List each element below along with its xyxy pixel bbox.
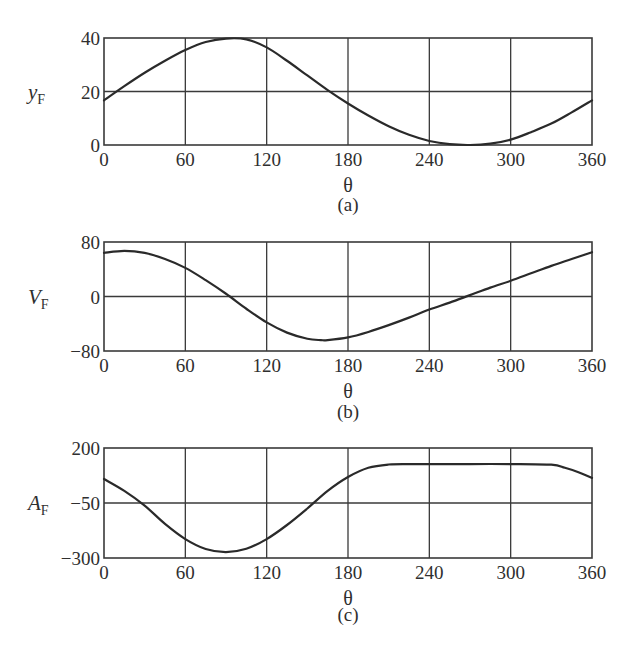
x-tick-label: 0 (99, 355, 109, 376)
y-axis-label: AF (26, 491, 49, 518)
x-tick-label: 60 (176, 149, 195, 170)
y-tick-label: 20 (81, 82, 100, 103)
panel-caption: (a) (337, 194, 358, 216)
panel-caption: (c) (337, 604, 358, 626)
x-tick-label: 120 (252, 355, 281, 376)
x-tick-label: 180 (334, 562, 363, 583)
x-tick-label: 0 (99, 149, 109, 170)
y-axis-label-subscript: F (41, 297, 49, 312)
y-tick-label: 0 (91, 135, 101, 156)
y-tick-label: −80 (70, 341, 100, 362)
x-tick-label: 360 (578, 562, 607, 583)
x-tick-label: 300 (496, 355, 525, 376)
y-tick-label: 200 (72, 438, 101, 459)
x-tick-label: 360 (578, 355, 607, 376)
y-axis-label-subscript: F (41, 503, 49, 518)
x-tick-labels: 060120180240300360 (99, 355, 606, 376)
y-tick-label: −50 (70, 493, 100, 514)
x-tick-label: 60 (176, 355, 195, 376)
x-tick-label: 180 (334, 149, 363, 170)
x-axis-label: θ (343, 174, 353, 196)
y-tick-label: 80 (81, 232, 100, 253)
x-axis-label: θ (343, 380, 353, 402)
y-axis-label-main: y (26, 80, 38, 104)
x-tick-label: 300 (496, 149, 525, 170)
x-tick-label: 360 (578, 149, 607, 170)
panel-caption: (b) (337, 401, 359, 423)
x-tick-labels: 060120180240300360 (99, 562, 606, 583)
x-tick-label: 0 (99, 562, 109, 583)
chart-panel-b: 060120180240300360−80080VFθ(b) (28, 232, 606, 423)
x-tick-label: 120 (252, 149, 281, 170)
chart-panel-c: 060120180240300360−300−50200AFθ(c) (26, 438, 606, 626)
y-tick-label: −300 (61, 548, 100, 569)
y-tick-labels: −80080 (70, 232, 100, 362)
x-tick-label: 300 (496, 562, 525, 583)
x-tick-label: 240 (415, 562, 444, 583)
grid-lines (104, 242, 592, 351)
x-tick-label: 60 (176, 562, 195, 583)
chart-panel-a: 06012018024030036002040yFθ(a) (26, 28, 606, 216)
x-tick-label: 240 (415, 355, 444, 376)
y-axis-label-subscript: F (37, 92, 45, 107)
y-axis-label: yF (26, 80, 45, 107)
y-tick-label: 0 (91, 287, 101, 308)
y-tick-label: 40 (81, 28, 100, 49)
x-tick-label: 240 (415, 149, 444, 170)
y-axis-label: VF (28, 285, 49, 312)
x-tick-labels: 060120180240300360 (99, 149, 606, 170)
x-tick-label: 120 (252, 562, 281, 583)
y-axis-label-main: A (26, 491, 41, 515)
y-tick-labels: 02040 (81, 28, 100, 156)
y-tick-labels: −300−50200 (61, 438, 100, 569)
x-tick-label: 180 (334, 355, 363, 376)
figure: 06012018024030036002040yFθ(a) 0601201802… (0, 0, 637, 650)
